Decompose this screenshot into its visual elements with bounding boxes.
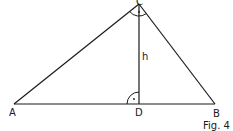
right-angle-dot-d [133,98,135,100]
label-b: B [213,108,220,119]
right-angle-arc-d [127,92,139,104]
right-angle-dot-c [138,11,140,13]
label-a: A [9,107,16,118]
figure-caption: Fig. 4 [203,120,230,131]
label-c: C [136,0,143,7]
label-h: h [142,51,148,62]
right-angle-arc-c [130,12,147,17]
side-bc [139,4,215,104]
side-ac [14,4,139,104]
right-triangle-diagram: C h A D B Fig. 4 [0,0,233,131]
label-d: D [135,107,143,118]
